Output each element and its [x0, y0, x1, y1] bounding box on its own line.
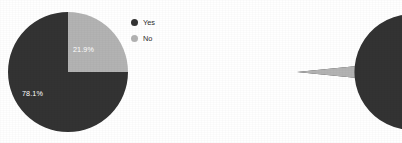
- legend-label-yes: Yes: [143, 19, 155, 26]
- pie-right-svg: [201, 0, 402, 143]
- pie-left-svg: [0, 0, 201, 143]
- legend-swatch-no-icon: [131, 35, 138, 42]
- legend-label-no: No: [143, 35, 152, 42]
- legend-swatch-yes-icon: [131, 19, 138, 26]
- legend-item-yes[interactable]: Yes: [131, 18, 155, 27]
- legend-item-no[interactable]: No: [131, 34, 155, 43]
- pie-left-slice-no: [68, 12, 128, 72]
- pie-right-slice-no: [297, 66, 355, 77]
- pie-left-label-yes: 78.1%: [22, 90, 43, 97]
- pie-right-label-yes: 96.9%: [247, 68, 268, 75]
- pie-left-legend: Yes No: [131, 18, 155, 43]
- pie-chart-figure: 21.9% 78.1% Yes No 96.9% Yes: [0, 0, 402, 143]
- pie-chart-right: 96.9% Yes No: [201, 0, 402, 143]
- pie-chart-left: 21.9% 78.1% Yes No: [0, 0, 201, 143]
- pie-left-label-no: 21.9%: [73, 46, 94, 53]
